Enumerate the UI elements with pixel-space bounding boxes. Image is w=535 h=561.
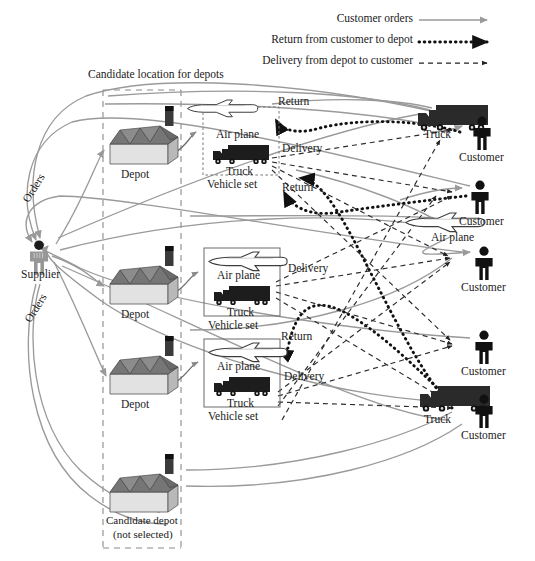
field-truck-icon-1	[418, 105, 488, 131]
customer-icon-2	[471, 181, 488, 214]
customer-icon-4	[475, 331, 492, 364]
return-curve-3	[300, 178, 452, 408]
delivery-3	[272, 166, 448, 256]
legend-sample-lines	[419, 20, 487, 63]
order-curve-11	[60, 218, 432, 250]
field-airplane-icon	[406, 213, 484, 232]
delivery-1	[272, 130, 452, 158]
delivery-13	[282, 140, 440, 420]
order-curve-9	[54, 262, 106, 376]
depot-icon-2	[110, 246, 178, 304]
depot-icon-3	[110, 336, 178, 394]
customer-icon-3	[475, 247, 492, 280]
depot-icon-4	[110, 454, 178, 512]
order-curve-22	[423, 236, 470, 254]
diagram-canvas: Customer orders Return from customer to …	[0, 0, 535, 561]
supplier-icon	[30, 240, 48, 275]
return-curve-3b	[288, 305, 448, 398]
delivery-8	[276, 298, 452, 404]
depot-icon-1	[110, 106, 178, 164]
order-curve-16	[186, 412, 452, 470]
delivery-7	[276, 292, 452, 344]
network-graphics	[0, 0, 535, 561]
vehicle-set-2-contents	[209, 252, 287, 305]
vehicle-set-3-contents	[209, 343, 287, 396]
order-curve-24	[400, 188, 462, 200]
delivery-12	[278, 196, 436, 406]
